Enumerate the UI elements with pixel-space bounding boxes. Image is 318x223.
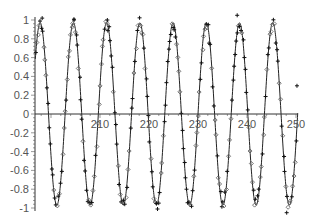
y-tick-label: 0.8 xyxy=(14,33,29,45)
plus-marker xyxy=(225,169,229,173)
plus-marker xyxy=(114,123,118,127)
diamond-marker xyxy=(134,47,138,51)
plus-marker xyxy=(94,153,98,157)
plus-marker xyxy=(181,128,185,132)
plus-marker xyxy=(252,188,256,192)
plus-marker xyxy=(80,117,84,121)
plus-marker xyxy=(108,39,112,43)
plus-marker xyxy=(50,167,54,171)
plus-marker xyxy=(138,16,142,20)
plus-marker xyxy=(264,95,268,99)
plus-marker xyxy=(142,46,146,50)
plus-marker xyxy=(282,154,286,158)
plus-marker xyxy=(125,185,129,189)
plus-marker xyxy=(230,98,234,102)
plus-marker xyxy=(164,81,168,85)
y-tick-label: -0.8 xyxy=(10,183,29,195)
plus-marker xyxy=(131,97,135,101)
y-tick-label: 1 xyxy=(23,14,29,26)
axes: 10.80.60.40.20-0.2-0.4-0.6-0.8-121022023… xyxy=(10,14,305,214)
diamond-marker xyxy=(286,205,290,209)
plus-marker xyxy=(105,18,109,22)
plus-marker xyxy=(163,120,167,124)
plus-marker xyxy=(243,67,247,71)
plus-marker xyxy=(169,32,173,36)
plus-marker xyxy=(244,90,248,94)
plus-marker xyxy=(46,101,50,105)
plus-marker xyxy=(185,187,189,191)
plus-marker xyxy=(117,182,121,186)
plus-marker xyxy=(233,53,237,57)
y-tick-label: -0.4 xyxy=(10,146,29,158)
plus-marker xyxy=(271,18,275,22)
plus-marker xyxy=(179,111,183,115)
plus-marker xyxy=(130,106,134,110)
plus-marker xyxy=(235,31,239,35)
plus-marker xyxy=(235,13,239,17)
plus-marker xyxy=(45,86,49,90)
plus-marker xyxy=(79,98,83,102)
plus-marker xyxy=(64,98,68,102)
plus-marker xyxy=(53,196,57,200)
plus-marker xyxy=(82,158,86,162)
y-tick-label: 0.6 xyxy=(14,52,29,64)
plus-marker xyxy=(168,40,172,44)
plus-marker xyxy=(285,211,289,215)
plus-marker xyxy=(158,191,162,195)
x-tick-label: 240 xyxy=(238,118,256,130)
plus-marker xyxy=(147,140,151,144)
plus-marker xyxy=(156,207,160,211)
plus-marker xyxy=(47,126,51,130)
plus-marker xyxy=(275,48,279,52)
plus-marker xyxy=(232,64,236,68)
plus-marker xyxy=(129,126,133,130)
plus-marker xyxy=(290,195,294,199)
plus-marker xyxy=(267,46,271,50)
plus-marker xyxy=(40,16,44,20)
plus-marker xyxy=(60,169,64,173)
plus-marker xyxy=(295,84,299,88)
plus-marker xyxy=(234,39,238,43)
plus-marker xyxy=(133,59,137,63)
diamond-marker xyxy=(76,66,80,70)
plus-marker xyxy=(145,94,149,98)
plus-marker xyxy=(294,139,298,143)
y-tick-label: 0.2 xyxy=(14,89,29,101)
x-tick-label: 220 xyxy=(140,118,158,130)
x-tick-label: 210 xyxy=(91,118,109,130)
plus-marker xyxy=(211,85,215,89)
plus-marker xyxy=(231,78,235,82)
plus-marker xyxy=(150,170,154,174)
plus-marker xyxy=(183,161,187,165)
plus-marker xyxy=(242,56,246,60)
plus-marker xyxy=(151,185,155,189)
plus-marker xyxy=(135,29,139,33)
plus-marker xyxy=(110,65,114,69)
plus-marker xyxy=(83,169,87,173)
plus-marker xyxy=(173,35,177,39)
plus-marker xyxy=(266,53,270,57)
x-tick-label: 230 xyxy=(189,118,207,130)
plus-marker xyxy=(59,181,63,185)
y-tick-label: -0.6 xyxy=(10,164,29,176)
plus-marker xyxy=(115,142,119,146)
plus-marker xyxy=(280,124,284,128)
plus-marker xyxy=(109,54,113,58)
plus-marker xyxy=(38,19,42,23)
plus-marker xyxy=(212,104,216,108)
plus-marker xyxy=(283,169,287,173)
plus-marker xyxy=(163,103,167,107)
plus-marker xyxy=(285,194,289,198)
plus-marker xyxy=(193,168,197,172)
plus-marker xyxy=(145,77,149,81)
plus-marker xyxy=(51,173,55,177)
plus-marker xyxy=(261,152,265,156)
plus-marker xyxy=(166,60,170,64)
plus-marker xyxy=(48,142,52,146)
plus-marker xyxy=(199,61,203,65)
sine-fit-chart: 10.80.60.40.20-0.2-0.4-0.6-0.8-121022023… xyxy=(0,0,318,223)
y-tick-label: 0 xyxy=(23,108,29,120)
plus-marker xyxy=(242,38,246,42)
plus-marker xyxy=(85,188,89,192)
plus-marker xyxy=(198,77,202,81)
